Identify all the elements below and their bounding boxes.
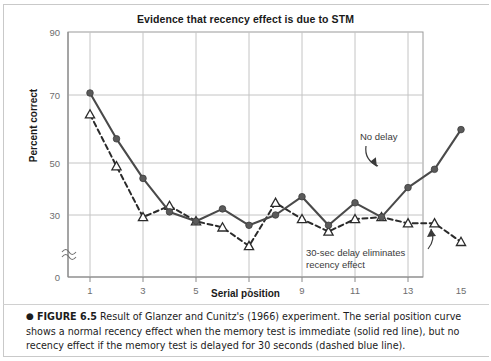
caption-divider [3, 304, 489, 305]
data-point-marker [140, 175, 147, 182]
x-tick-marks [90, 277, 408, 282]
data-point-marker [297, 215, 306, 223]
x-tick-11: 11 [350, 285, 360, 296]
delay-arrowhead [427, 229, 436, 237]
data-point-marker [405, 184, 412, 191]
annotation-30sec-delay: 30-sec delay eliminates recency effect [306, 247, 436, 271]
x-tick-15: 15 [456, 285, 467, 296]
data-point-marker [193, 218, 200, 225]
y-tick-70: 70 [49, 90, 60, 101]
y-axis-break-icon-2 [62, 255, 76, 260]
data-point-marker [299, 193, 306, 200]
x-tick-13: 13 [403, 285, 414, 296]
y-tick-50: 50 [49, 158, 60, 169]
data-point-marker [113, 136, 120, 143]
annotation-no-delay: No delay [360, 131, 398, 142]
data-point-marker [87, 90, 94, 97]
data-point-marker [431, 166, 438, 173]
data-point-marker [325, 222, 332, 229]
data-point-marker [85, 110, 94, 118]
data-point-marker [352, 200, 359, 207]
data-point-marker [456, 237, 465, 245]
y-tick-90: 90 [49, 27, 60, 38]
caption-bullet-icon: ● [26, 311, 34, 321]
data-point-marker [272, 212, 279, 219]
data-point-marker [271, 198, 280, 206]
y-tick-labels: 90 70 50 30 0 [49, 27, 60, 283]
caption-figure-label: FIGURE 6.5 [37, 311, 97, 322]
y-tick-30: 30 [49, 210, 60, 221]
figure-caption: ● FIGURE 6.5 Result of Glanzer and Cunit… [26, 309, 464, 354]
plot-frame [68, 32, 423, 277]
x-tick-5: 5 [193, 285, 198, 296]
data-point-marker [378, 214, 385, 221]
data-point-marker [246, 222, 253, 229]
y-tick-0: 0 [55, 272, 60, 283]
x-tick-labels: 1 3 5 7 9 11 13 15 [87, 285, 466, 296]
x-tick-1: 1 [87, 285, 92, 296]
page-border-bottom [3, 356, 489, 357]
data-point-marker [458, 126, 465, 133]
data-point-marker [219, 206, 226, 213]
x-tick-7: 7 [246, 285, 251, 296]
horizontal-gridlines [68, 95, 423, 215]
figure-container: Evidence that recency effect is due to S… [0, 0, 491, 361]
x-tick-3: 3 [140, 285, 145, 296]
x-tick-9: 9 [299, 285, 304, 296]
y-axis-break-icon [62, 250, 76, 255]
data-point-marker [166, 209, 173, 216]
